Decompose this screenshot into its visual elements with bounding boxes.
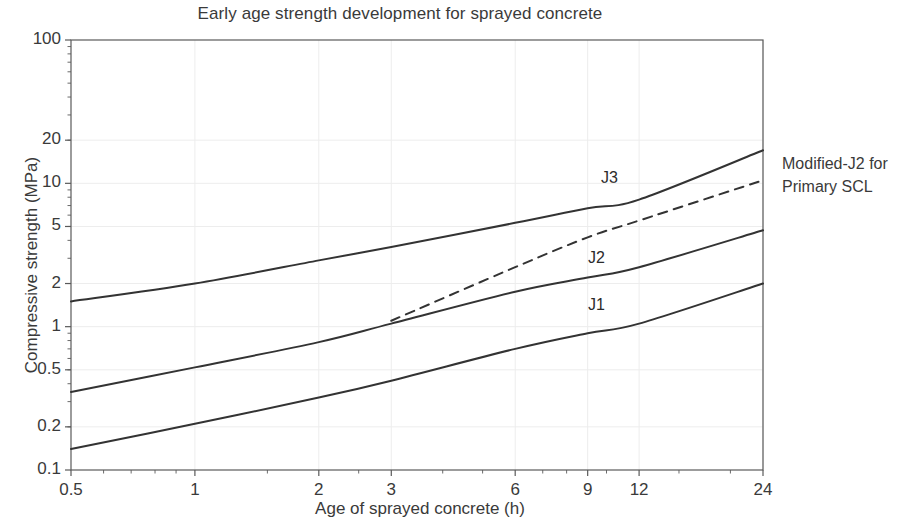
- curve-j3: [71, 150, 763, 301]
- curve-j1: [71, 284, 763, 450]
- curves: [71, 150, 763, 449]
- axis-frame: [71, 40, 763, 470]
- curve-modified-j2: [391, 180, 763, 320]
- tick-marks: [65, 40, 763, 476]
- chart-figure: Early age strength development for spray…: [0, 0, 910, 528]
- gridlines: [71, 40, 763, 470]
- curve-j2: [71, 230, 763, 392]
- plot-area: [0, 0, 910, 528]
